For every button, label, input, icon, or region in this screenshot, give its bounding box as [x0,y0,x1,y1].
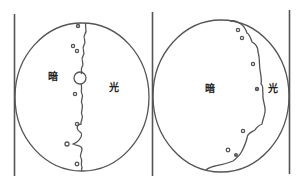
left-dot [71,44,74,47]
right-light-label: 光 [268,84,278,94]
right-boundary-line [206,21,265,170]
left-dot [75,162,79,166]
left-dark-label: 暗 [48,72,58,82]
right-dot [226,148,230,152]
left-light-label: 光 [109,83,119,93]
right-dark-label: 暗 [205,84,215,94]
right-dot [241,129,244,132]
left-large-ring [74,72,86,84]
left-dot [65,142,69,146]
right-dot [236,28,239,31]
left-dot [75,49,78,52]
diagram-canvas [0,0,301,184]
right-field-circle [153,20,289,172]
right-dot [240,36,243,39]
right-dot [251,62,254,65]
left-dot [73,92,76,95]
left-dot [75,122,78,125]
